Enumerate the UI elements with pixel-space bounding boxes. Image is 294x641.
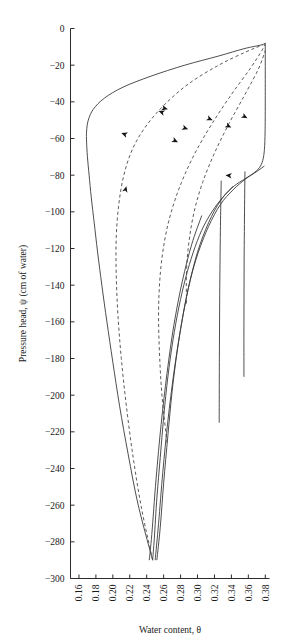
x-tick-label: 0.32 bbox=[210, 584, 220, 601]
y-tick-label: −120 bbox=[45, 244, 65, 254]
y-tick-label: −300 bbox=[45, 574, 65, 584]
x-tick-label: 0.34 bbox=[227, 584, 237, 601]
y-tick-label: −40 bbox=[50, 97, 65, 107]
x-axis-title: Water content, θ bbox=[139, 625, 202, 635]
y-tick-label: −80 bbox=[50, 171, 65, 181]
y-tick-label: −100 bbox=[45, 207, 65, 217]
x-tick-label: 0.30 bbox=[193, 584, 203, 601]
y-tick-label: −140 bbox=[45, 281, 65, 291]
x-tick-label: 0.16 bbox=[74, 584, 84, 601]
y-tick-label: −20 bbox=[50, 61, 65, 71]
x-tick-label: 0.24 bbox=[142, 584, 152, 601]
x-tick-label: 0.22 bbox=[125, 584, 135, 601]
y-tick-label: −240 bbox=[45, 464, 65, 474]
hysteresis-chart-figure: −300−280−260−240−220−200−180−160−140−120… bbox=[0, 0, 294, 641]
x-tick-label: 0.20 bbox=[108, 584, 118, 601]
y-tick-label: −180 bbox=[45, 354, 65, 364]
x-tick-label: 0.28 bbox=[176, 584, 186, 601]
y-tick-label: −280 bbox=[45, 537, 65, 547]
y-axis-title: Pressure head, ψ (cm of water) bbox=[18, 245, 29, 362]
x-tick-label: 0.18 bbox=[91, 584, 101, 601]
y-tick-label: −60 bbox=[50, 134, 65, 144]
y-tick-label: −200 bbox=[45, 391, 65, 401]
y-tick-label: −220 bbox=[45, 427, 65, 437]
soil-water-retention-hysteresis-plot: −300−280−260−240−220−200−180−160−140−120… bbox=[0, 0, 294, 641]
y-tick-label: 0 bbox=[60, 24, 65, 34]
y-tick-label: −260 bbox=[45, 501, 65, 511]
y-tick-label: −160 bbox=[45, 317, 65, 327]
x-tick-label: 0.38 bbox=[261, 584, 271, 601]
x-tick-label: 0.36 bbox=[244, 584, 254, 601]
x-tick-label: 0.26 bbox=[159, 584, 169, 601]
